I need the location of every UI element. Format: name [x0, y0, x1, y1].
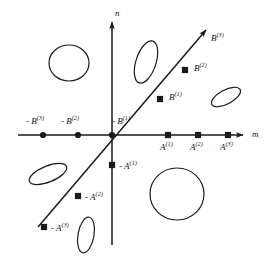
oval-upper-mid [130, 38, 163, 86]
label-b3-superscript: (3) [217, 31, 224, 38]
oval-bottom [75, 216, 97, 254]
label-neg-a2-superscript: (2) [96, 190, 103, 197]
label-neg-b3-text: - B [26, 116, 37, 126]
m-axis-label: m [252, 130, 259, 139]
label-b3: B(3) [211, 34, 224, 43]
label-a1: A(1) [160, 143, 173, 152]
label-neg-b2-superscript: (2) [72, 114, 79, 121]
label-neg-b1: - B(1) [112, 117, 130, 126]
oval-right [209, 83, 244, 110]
label-neg-b3: - B(3) [26, 117, 44, 126]
label-neg-b2-text: - B [61, 116, 72, 126]
math-figure: - B(3)- B(2)- B(1)A(1)A(2)A(3)B(1)B(2)B(… [0, 0, 270, 258]
marker-b2 [182, 67, 188, 73]
oval-lower-right-circle [150, 168, 204, 220]
marker-a2 [195, 132, 201, 138]
label-b1: B(1) [169, 93, 182, 102]
n-axis-label: n [115, 9, 120, 18]
label-a1-superscript: (1) [166, 140, 173, 147]
oval-lower-left [26, 159, 69, 189]
diagonal-line [38, 30, 206, 227]
oval-upper-left-circle [49, 45, 89, 81]
marker-a1 [165, 132, 171, 138]
oval-group [26, 38, 243, 254]
marker-b1 [157, 96, 163, 102]
label-a2-superscript: (2) [196, 140, 203, 147]
label-neg-a2: - A(2) [85, 193, 103, 202]
marker-neg-b1 [109, 132, 115, 138]
label-b1-superscript: (1) [175, 90, 182, 97]
label-a3: A(3) [220, 143, 233, 152]
label-neg-a2-text: - A [85, 192, 96, 202]
marker-neg-a1 [109, 162, 115, 168]
figure-canvas [0, 0, 270, 258]
label-neg-b2: - B(2) [61, 117, 79, 126]
marker-neg-a2 [75, 193, 81, 199]
label-neg-b3-superscript: (3) [37, 114, 44, 121]
marker-neg-a3 [41, 224, 47, 230]
label-b2: B(2) [194, 64, 207, 73]
marker-a3 [225, 132, 231, 138]
label-neg-a3-text: - A [51, 223, 62, 233]
label-b2-superscript: (2) [200, 61, 207, 68]
label-neg-a3-superscript: (3) [62, 221, 69, 228]
label-a2: A(2) [190, 143, 203, 152]
marker-neg-b3 [40, 132, 46, 138]
label-neg-a3: - A(3) [51, 224, 69, 233]
label-neg-b1-text: - B [112, 116, 123, 126]
label-neg-a1-superscript: (1) [130, 159, 137, 166]
label-a3-superscript: (3) [226, 140, 233, 147]
marker-neg-b2 [75, 132, 81, 138]
label-neg-a1: - A(1) [119, 162, 137, 171]
label-neg-a1-text: - A [119, 161, 130, 171]
label-neg-b1-superscript: (1) [123, 114, 130, 121]
